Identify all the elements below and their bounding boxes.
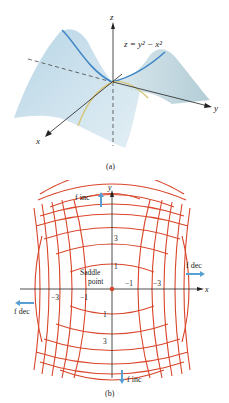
- level-label-ny1: 1: [103, 310, 107, 319]
- surface-equation: z = y² − x²: [123, 39, 162, 49]
- y-axis-arrow-icon: [204, 103, 212, 108]
- f-inc-top-label: f inc: [75, 193, 90, 202]
- contour-plot: x y Saddle point 3 1 1 3 −1 −3 −1 −3 f i…: [0, 180, 229, 403]
- arrow-left-icon: [15, 300, 20, 306]
- z-axis-arrow-icon: [111, 22, 115, 29]
- level-label-xm1-left: −1: [80, 293, 88, 302]
- saddle-label-line2: point: [88, 277, 104, 286]
- x-axis-label: x: [204, 285, 209, 294]
- x-axis-arrow-icon: [197, 287, 204, 291]
- level-label-xm3-left: −3: [51, 293, 59, 302]
- y-axis-label: y: [213, 103, 218, 113]
- level-label-xm3-right: −3: [153, 279, 161, 288]
- level-label-y1: 1: [114, 262, 118, 271]
- caption-a: (a): [106, 162, 115, 171]
- saddle-point-marker: [110, 287, 115, 292]
- level-label-ny3: 3: [103, 337, 107, 346]
- z-axis-label: z: [109, 12, 114, 22]
- arrow-right-icon: [200, 271, 205, 277]
- arrow-down-icon: [119, 379, 125, 384]
- f-dec-left-label: f dec: [14, 307, 30, 316]
- x-axis-label: x: [35, 136, 40, 146]
- level-label-y3: 3: [114, 234, 118, 243]
- saddle-label-line1: Saddle: [80, 268, 101, 277]
- saddle-surface-plot: z y x z = y² − x² (a): [0, 0, 229, 180]
- figure-b-level-curves: x y Saddle point 3 1 1 3 −1 −3 −1 −3 f i…: [0, 180, 229, 403]
- f-dec-right-label: f dec: [186, 261, 202, 270]
- f-inc-bottom-label: f inc: [127, 375, 142, 384]
- level-label-xm1-right: −1: [125, 279, 133, 288]
- x-axis-arrow-icon: [45, 130, 52, 137]
- caption-b: (b): [105, 389, 115, 398]
- figure-a-saddle-surface: z y x z = y² − x² (a): [0, 0, 229, 180]
- y-axis-label: y: [107, 183, 112, 192]
